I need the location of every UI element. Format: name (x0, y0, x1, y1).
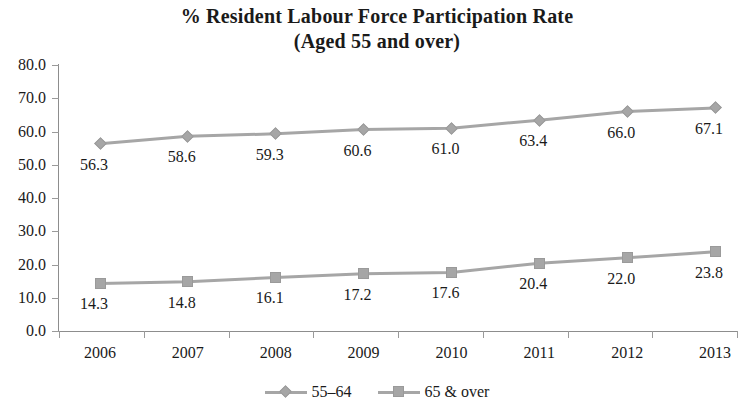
y-axis-tick (52, 298, 59, 299)
data-point-marker (358, 268, 369, 279)
data-point-marker (622, 252, 633, 263)
legend-item-1[interactable]: 55–64 (265, 383, 352, 401)
x-axis-tick (313, 331, 314, 338)
data-point-marker (270, 272, 281, 283)
x-axis-tick-label: 2010 (411, 344, 491, 362)
y-axis-tick (52, 132, 59, 133)
legend-label: 55–64 (312, 383, 352, 401)
x-axis-tick (483, 331, 484, 338)
data-point-label: 22.0 (586, 270, 656, 288)
y-axis-tick-label: 70.0 (0, 90, 46, 106)
data-point-marker (446, 267, 457, 278)
legend-swatch (378, 385, 420, 399)
x-axis-tick (398, 331, 399, 338)
y-axis-tick (52, 331, 59, 332)
data-point-label: 61.0 (410, 140, 480, 158)
y-axis-tick (52, 65, 59, 66)
data-point-marker (445, 122, 458, 135)
data-point-marker (182, 276, 193, 287)
x-axis-tick-label: 2008 (236, 344, 316, 362)
data-point-label: 23.8 (674, 264, 744, 282)
data-point-label: 56.3 (59, 156, 129, 174)
data-point-marker (181, 130, 194, 143)
chart-legend: 55–6465 & over (0, 383, 754, 401)
data-point-label: 17.6 (410, 284, 480, 302)
y-axis-tick (52, 265, 59, 266)
y-axis-tick (52, 98, 59, 99)
x-axis-tick-label: 2009 (324, 344, 404, 362)
legend-swatch (265, 385, 307, 399)
x-axis-tick (568, 331, 569, 338)
x-axis-tick-label: 2006 (60, 344, 140, 362)
legend-marker-square (393, 386, 404, 397)
x-axis-tick-label: 2007 (148, 344, 228, 362)
data-point-label: 60.6 (323, 142, 393, 160)
data-point-label: 14.8 (147, 294, 217, 312)
data-point-marker (710, 246, 721, 257)
x-axis-tick (652, 331, 653, 338)
y-axis-tick (52, 198, 59, 199)
data-point-label: 20.4 (498, 275, 568, 293)
data-point-label: 16.1 (235, 289, 305, 307)
y-axis-tick-label: 30.0 (0, 223, 46, 239)
data-point-marker (94, 137, 107, 150)
x-axis-tick-label: 2013 (675, 344, 754, 362)
data-point-marker (621, 105, 634, 118)
data-point-marker (95, 278, 106, 289)
y-axis-tick-label: 80.0 (0, 57, 46, 73)
data-point-label: 59.3 (235, 146, 305, 164)
y-axis-tick-label: 10.0 (0, 290, 46, 306)
y-axis-tick (52, 231, 59, 232)
y-axis-tick-label: 0.0 (0, 323, 46, 339)
y-axis-tick-label: 40.0 (0, 190, 46, 206)
legend-item-2[interactable]: 65 & over (378, 383, 490, 401)
data-point-marker (709, 102, 722, 115)
y-axis-tick-label: 20.0 (0, 257, 46, 273)
y-axis-tick-label: 60.0 (0, 124, 46, 140)
x-axis-tick (144, 331, 145, 338)
chart-title-line1: % Resident Labour Force Participation Ra… (181, 5, 574, 27)
data-point-marker (534, 258, 545, 269)
data-point-label: 63.4 (498, 132, 568, 150)
x-axis-tick-label: 2012 (587, 344, 667, 362)
x-axis-tick (59, 331, 60, 338)
y-axis-tick-label: 50.0 (0, 157, 46, 173)
data-point-label: 14.3 (59, 295, 129, 313)
data-point-marker (357, 123, 370, 136)
y-axis-tick (52, 165, 59, 166)
data-point-label: 58.6 (147, 148, 217, 166)
data-point-marker (269, 127, 282, 140)
legend-marker-diamond (279, 385, 292, 398)
data-point-label: 66.0 (586, 124, 656, 142)
data-point-label: 67.1 (674, 120, 744, 138)
data-point-label: 17.2 (323, 286, 393, 304)
data-point-marker (533, 114, 546, 127)
chart-title-line2: (Aged 55 and over) (0, 29, 754, 54)
legend-label: 65 & over (425, 383, 490, 401)
chart-title: % Resident Labour Force Participation Ra… (0, 4, 754, 54)
x-axis-tick-label: 2011 (499, 344, 579, 362)
x-axis-tick (229, 331, 230, 338)
x-axis-tick (737, 331, 738, 338)
